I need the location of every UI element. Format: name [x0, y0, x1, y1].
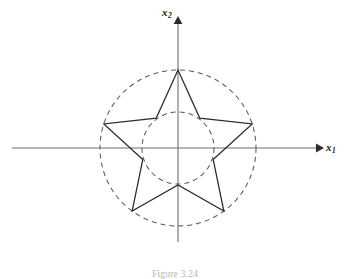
y-axis-label-subscript: 2 [168, 11, 172, 20]
x-axis-label: x1 [326, 141, 335, 153]
y-axis [174, 16, 183, 242]
y-axis-label-text: x [162, 6, 168, 18]
x-axis-arrowhead-icon [316, 144, 324, 153]
y-axis-label: x2 [162, 6, 171, 18]
figure-caption: Figure 3.24 [0, 268, 350, 279]
x-axis-label-text: x [326, 141, 332, 153]
y-axis-arrowhead-icon [174, 16, 183, 24]
x-axis-label-subscript: 1 [332, 146, 336, 155]
x-axis [12, 144, 324, 153]
